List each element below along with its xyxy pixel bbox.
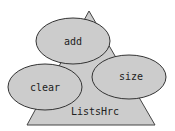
method-label-add: add bbox=[64, 36, 82, 47]
method-label-clear: clear bbox=[30, 82, 60, 93]
method-label-size: size bbox=[119, 71, 143, 82]
diagram-canvas: ListsHrc add clear size bbox=[0, 0, 175, 131]
class-label: ListsHrc bbox=[71, 106, 119, 117]
